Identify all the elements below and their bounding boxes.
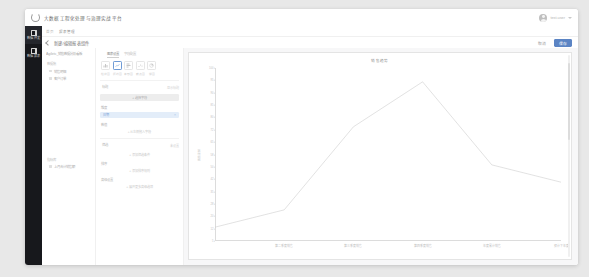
vertical-scrollbar[interactable] xyxy=(568,55,570,257)
chart-title: 销售趋势 xyxy=(189,58,571,63)
form-label: 排序 xyxy=(101,161,179,166)
chart-type-label: 散点图 xyxy=(136,72,145,76)
form-label: 高级设置 xyxy=(101,177,179,182)
y-axis-tick-mark xyxy=(214,228,215,229)
chart-type-label: 条形图 xyxy=(124,72,133,76)
add-measure-button[interactable]: + 从左侧拖入字段 xyxy=(100,129,179,134)
tab-field-settings[interactable]: 字段配置 xyxy=(124,51,136,58)
x-axis-tick-label: 预计下年度 xyxy=(554,244,569,248)
chart-type-labels: 柱状图 折线图 条形图 散点图 饼图 xyxy=(101,72,179,76)
form-label: 数值 xyxy=(101,122,179,127)
chart-card: 销售趋势 销售金额 100959085807265585042352820125… xyxy=(188,52,572,260)
chart-type-label: 柱状图 xyxy=(101,72,110,76)
y-axis-tick-mark xyxy=(214,105,215,106)
x-axis-tick-label: 第二季度销售 xyxy=(275,244,293,248)
tab-chart-settings[interactable]: 图表设置 xyxy=(107,51,119,58)
list-item[interactable]: 客户订单 xyxy=(49,76,92,81)
table-icon xyxy=(49,77,52,80)
list-item-label: 销售明细 xyxy=(54,69,66,74)
x-axis-tick-label: 年度累计销售 xyxy=(483,244,501,248)
pie-chart-icon[interactable] xyxy=(147,61,156,70)
line-chart-icon[interactable] xyxy=(113,61,122,70)
dimension-tag-label: 日期 xyxy=(103,112,109,117)
header-right-group: test.user xyxy=(539,14,578,22)
chevron-down-icon[interactable] xyxy=(568,17,572,19)
dimension-field-tag[interactable]: 日期 × xyxy=(100,112,179,119)
breadcrumb: 首页 报表管理 xyxy=(42,26,578,37)
y-axis-tick-mark xyxy=(214,204,215,205)
sidebar-item-reports[interactable]: 数据 报表 xyxy=(25,44,42,62)
tree-spacer xyxy=(46,84,92,157)
select-field-button[interactable]: + 选择字段 xyxy=(100,94,179,101)
tree-header-label: Agiletc_销售数据分析看板 xyxy=(46,51,92,56)
editor-workspace: Agiletc_销售数据分析看板 数据集 销售明细 客户订单 指标库 上月合计销… xyxy=(42,48,578,265)
form-label: 筛选 xyxy=(102,142,108,147)
chart-preview-area: 销售趋势 销售金额 100959085807265585042352820125… xyxy=(184,48,578,265)
tree-group-label: 数据集 xyxy=(47,61,92,66)
metric-icon xyxy=(49,165,52,168)
chevron-left-icon[interactable] xyxy=(45,40,51,46)
y-axis-tick-mark xyxy=(214,154,215,155)
sidebar-item-label: 数据 开发 xyxy=(27,37,40,41)
x-axis-tick-label: 第四季度销售 xyxy=(414,244,432,248)
y-axis-tick-mark xyxy=(214,129,215,130)
scatter-chart-icon[interactable] xyxy=(136,61,145,70)
add-filter-button[interactable]: + 添加筛选条件 xyxy=(100,152,179,157)
breadcrumb-item-home[interactable]: 首页 xyxy=(46,29,54,34)
sidebar-item-data-dev[interactable]: 数据 开发 xyxy=(25,26,42,44)
chart-type-label: 饼图 xyxy=(147,72,156,76)
list-item[interactable]: 上月合计销售额 xyxy=(49,164,92,169)
cancel-button[interactable]: 取消 xyxy=(534,38,550,48)
page-actions-group: 取消 保存 xyxy=(534,38,572,48)
y-axis-title: 销售金额 xyxy=(197,149,201,161)
add-sort-button[interactable]: + 添加排序规则 xyxy=(100,168,179,173)
advanced-settings-button[interactable]: + 展开更多高级选项 xyxy=(100,184,179,189)
divider xyxy=(100,138,179,139)
y-axis-tick-mark xyxy=(214,68,215,69)
chart-type-picker xyxy=(101,61,179,70)
list-item[interactable]: 销售明细 xyxy=(49,69,92,74)
scrollbar-thumb[interactable] xyxy=(568,63,570,140)
close-icon[interactable]: × xyxy=(174,113,176,117)
chart-type-label: 折线图 xyxy=(113,72,122,76)
y-axis-tick-mark xyxy=(214,191,215,192)
chart-report-icon xyxy=(31,48,37,54)
app-header: 大数据工程化处理与治理实战平台 test.user xyxy=(25,9,578,27)
form-label: 维度 xyxy=(101,105,179,110)
y-axis-tick-mark xyxy=(214,241,215,242)
breadcrumb-item-current: 报表管理 xyxy=(59,29,75,34)
form-section-filter: 筛选 未设置 xyxy=(101,142,179,149)
form-section-title: 标题 显示标题 xyxy=(101,84,179,91)
dataset-tree-panel: Agiletc_销售数据分析看板 数据集 销售明细 客户订单 指标库 上月合计销… xyxy=(42,48,96,265)
tree-group-label: 指标库 xyxy=(47,157,92,162)
form-label: 标题 xyxy=(102,84,108,89)
y-axis-tick-mark xyxy=(214,142,215,143)
user-avatar-icon[interactable] xyxy=(539,14,547,22)
column-chart-icon[interactable] xyxy=(124,61,133,70)
y-axis-tick-mark xyxy=(214,167,215,168)
y-axis-tick-mark xyxy=(214,216,215,217)
table-icon xyxy=(49,70,52,73)
grid-dashboard-icon xyxy=(31,30,37,36)
y-axis-tick-mark xyxy=(214,92,215,93)
line-chart-plot[interactable]: 销售金额 100959085807265585042352820125第二季度销… xyxy=(215,68,561,241)
sidebar-item-label: 数据 报表 xyxy=(27,55,40,59)
user-name-label: test.user xyxy=(550,16,565,20)
list-item-label: 上月合计销售额 xyxy=(54,164,75,169)
bar-chart-icon[interactable] xyxy=(101,61,110,70)
divider xyxy=(100,80,179,81)
y-axis-tick-mark xyxy=(214,179,215,180)
chart-series-line xyxy=(215,68,561,241)
chart-config-panel: 图表设置 字段配置 xyxy=(96,48,184,265)
x-axis-tick-label: 第三季度销售 xyxy=(344,244,362,248)
y-axis-tick-label: 100 xyxy=(209,67,213,70)
content-region: 首页 报表管理 新建/编辑报表组件 取消 保存 Agiletc_销售数据分析看板… xyxy=(42,26,578,265)
save-button[interactable]: 保存 xyxy=(554,39,572,48)
list-item-label: 客户订单 xyxy=(54,76,66,81)
main-sidebar: 数据 开发 数据 报表 xyxy=(25,26,42,265)
form-hint: 显示标题 xyxy=(167,85,179,90)
refresh-circle-icon xyxy=(31,13,40,22)
y-axis-tick-mark xyxy=(214,117,215,118)
form-hint: 未设置 xyxy=(170,143,179,148)
editor-title: 新建/编辑报表组件 xyxy=(54,40,89,46)
